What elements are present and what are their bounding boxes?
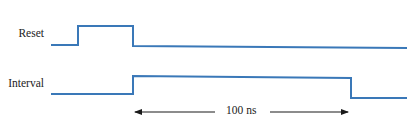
timing-diagram-canvas: [0, 0, 414, 132]
reset-signal-label: Reset: [2, 27, 44, 39]
interval-signal-label: Interval: [2, 77, 44, 89]
interval-waveform: [51, 76, 407, 98]
timing-diagram: Reset Interval 100 ns: [0, 0, 414, 132]
duration-label: 100 ns: [223, 104, 259, 116]
reset-waveform: [51, 26, 407, 48]
